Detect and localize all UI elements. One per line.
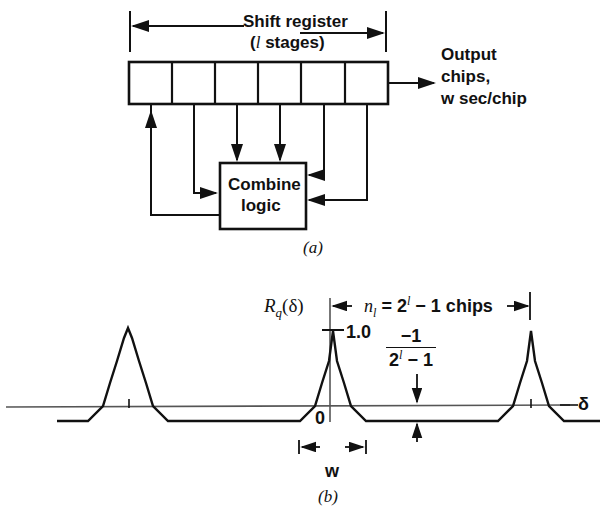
zero-label: 0 — [315, 408, 325, 429]
y-axis-label-argument: (δ) — [282, 295, 304, 316]
period-label: nl = 2l − 1 chips — [364, 294, 493, 321]
shift-register-dimension-label-line2: (l stages) — [250, 33, 325, 53]
tap-line-5-to-combine — [309, 110, 367, 200]
output-label-line2: chips, — [441, 67, 490, 87]
period-remainder: − 1 chips — [410, 296, 493, 316]
panel-a-tag: (a) — [303, 238, 323, 258]
combine-logic-label-line1: Combine — [228, 175, 301, 195]
stages-text: stages) — [260, 33, 324, 52]
output-label-line1: Output — [441, 45, 497, 65]
panel-b-drawing — [0, 262, 610, 512]
figure-container: Shift register (l stages) Output chips, … — [0, 0, 610, 512]
combine-logic-label-line2: logic — [241, 196, 281, 216]
output-label-line3: w sec/chip — [441, 89, 527, 109]
denominator-remainder: − 1 — [402, 350, 433, 370]
tap-line-1-to-combine — [194, 110, 216, 193]
shift-register-dimension-label-line1: Shift register — [243, 12, 348, 32]
x-axis-label: δ — [578, 394, 589, 415]
chip-width-dimension — [299, 440, 366, 454]
y-axis-label-R: R — [264, 295, 276, 316]
fraction-numerator: −1 — [386, 326, 436, 347]
zero-axis-line — [6, 405, 570, 407]
negative-level-fraction: −1 2l − 1 — [386, 326, 436, 371]
y-axis-label: Rq(δ) — [264, 295, 304, 321]
tap-line-4-to-combine — [309, 110, 324, 175]
fraction-denominator: 2l − 1 — [386, 347, 436, 371]
shift-register-cell-dividers — [172, 62, 345, 104]
peak-value-label: 1.0 — [346, 322, 371, 343]
chip-width-label: w — [325, 461, 339, 482]
panel-b-tag: (b) — [318, 487, 338, 507]
feedback-line-to-register-input — [151, 112, 220, 215]
tap-stubs — [151, 104, 367, 122]
denominator-base: 2 — [389, 350, 399, 370]
period-equals: = 2 — [376, 296, 407, 316]
period-symbol: n — [364, 296, 373, 316]
